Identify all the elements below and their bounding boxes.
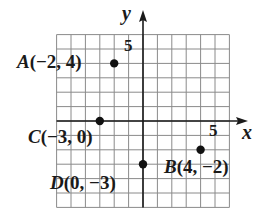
point-d [139, 160, 147, 168]
point-a [110, 59, 118, 67]
coordinate-plane: xy55A(−2, 4)B(4, −2)C(−3, 0)D(0, −3) [0, 0, 264, 224]
point-coords: (4, −2) [177, 156, 229, 178]
point-name: C [28, 126, 41, 147]
x-tick-label-5: 5 [209, 121, 218, 140]
point-coords: (0, −3) [64, 172, 116, 194]
point-label-a: A(−2, 4) [16, 51, 82, 73]
point-coords: (−2, 4) [30, 51, 82, 73]
point-coords: (−3, 0) [41, 126, 93, 148]
points [96, 59, 205, 168]
point-label-c: C(−3, 0) [28, 126, 93, 148]
point-name: D [49, 172, 64, 193]
point-name: B [163, 156, 177, 177]
point-label-d: D(0, −3) [49, 172, 116, 194]
point-name: A [16, 51, 30, 72]
x-axis-label: x [241, 121, 252, 143]
y-tick-label-5: 5 [124, 36, 133, 55]
point-b [196, 146, 204, 154]
point-c [96, 117, 104, 125]
y-axis-label: y [120, 2, 131, 25]
labels: xy55A(−2, 4)B(4, −2)C(−3, 0)D(0, −3) [16, 2, 252, 194]
point-label-b: B(4, −2) [163, 156, 229, 178]
